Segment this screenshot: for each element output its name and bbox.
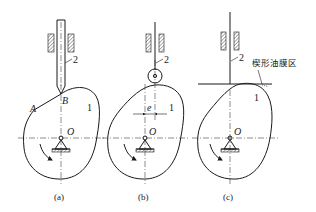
- cam-follower-diagram: 2 B 1 A O (a) 2 1: [0, 0, 316, 212]
- rotation-arrow-a: [40, 144, 52, 160]
- leader-2-a: [65, 59, 72, 63]
- guide-right-c: [234, 32, 239, 50]
- label-cam-1-b: 1: [169, 102, 174, 113]
- panel-c: 2 1 楔形油膜区 O (c): [192, 12, 297, 202]
- leader-oil-film: [258, 70, 262, 84]
- leader-2-b: [156, 59, 163, 63]
- label-cam-1-a: 1: [87, 102, 92, 113]
- rotation-arrow-c: [210, 144, 222, 160]
- guide-right-b: [159, 34, 164, 52]
- label-follower-2-b: 2: [164, 54, 169, 65]
- label-offset-e: e: [147, 102, 152, 113]
- label-center-O-b: O: [149, 126, 156, 137]
- label-center-O-c: O: [234, 126, 241, 137]
- caption-a: (a): [54, 192, 64, 202]
- knife-edge-follower: [57, 20, 65, 94]
- leader-2-c: [231, 57, 238, 61]
- guide-left-b: [146, 34, 151, 52]
- cam-profile-b: [108, 85, 184, 179]
- label-follower-2-c: 2: [239, 52, 244, 63]
- caption-b: (b): [138, 192, 149, 202]
- rotation-arrow-b: [124, 144, 136, 160]
- label-wedge-oil-film: 楔形油膜区: [252, 58, 297, 68]
- label-center-O-a: O: [67, 126, 74, 137]
- label-follower-2-a: 2: [73, 54, 78, 65]
- guide-left-c: [221, 32, 226, 50]
- label-point-A: A: [29, 103, 37, 114]
- guide-right-a: [68, 34, 74, 52]
- panel-a: 2 B 1 A O (a): [18, 20, 104, 202]
- caption-c: (c): [223, 192, 233, 202]
- label-cam-1-c: 1: [254, 92, 259, 103]
- guide-left-a: [48, 34, 54, 52]
- wedge-oil-film-zone: [262, 85, 268, 87]
- panel-b: 2 1 e O (b): [102, 22, 188, 202]
- label-point-B: B: [62, 95, 68, 106]
